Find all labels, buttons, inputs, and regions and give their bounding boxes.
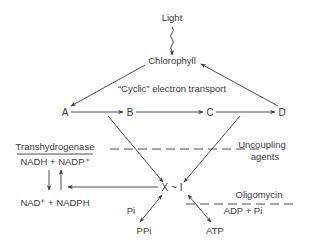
light-wavy-arrow — [171, 27, 174, 55]
ppi-label: PPi — [137, 225, 152, 236]
uncoupling-label: Uncoupling — [238, 139, 286, 150]
nadh-nadp-label: NADH + NADP⁺ — [20, 156, 89, 167]
atp-adp-arrow — [188, 195, 211, 222]
x-i-intermediate: X ~ I — [162, 182, 183, 193]
agents-label: agents — [251, 151, 280, 162]
node-b: B — [127, 107, 134, 118]
adp-pi-label: ADP + Pi — [224, 205, 263, 216]
oligomycin-label: Oligomycin — [236, 189, 283, 200]
light-label: Light — [162, 12, 183, 23]
node-c: C — [206, 107, 213, 118]
photophosphorylation-diagram: Light Chlorophyll “Cyclic” electron tran… — [0, 0, 309, 249]
node-a: A — [62, 107, 69, 118]
cyclic-transport-label: “Cyclic” electron transport — [118, 83, 227, 94]
atp-label: ATP — [206, 225, 224, 236]
pi-label: Pi — [127, 205, 135, 216]
pi-ppi-arrow — [140, 195, 162, 222]
chlorophyll-label: Chlorophyll — [148, 55, 196, 66]
transhydrogenase-label: Transhydrogenase — [16, 141, 95, 152]
nad-nadph-label: NAD⁺ + NADPH — [20, 197, 89, 208]
node-d: D — [278, 107, 285, 118]
